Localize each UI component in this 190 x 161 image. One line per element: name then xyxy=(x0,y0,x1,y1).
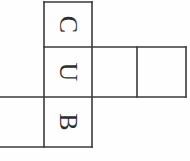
net-cell-cell-bottom-left xyxy=(0,97,44,147)
cube-net-diagram: CUB xyxy=(0,0,190,161)
cube-net-canvas: CUB xyxy=(0,0,190,161)
net-cell-cell-middle-right-inner xyxy=(92,47,137,97)
net-cell-fills xyxy=(0,2,186,147)
net-letter-c: C xyxy=(54,16,83,33)
net-letters: CUB xyxy=(54,16,83,131)
net-cell-cell-middle-right-outer xyxy=(137,47,186,97)
net-letter-u: U xyxy=(54,63,83,82)
net-letter-b: B xyxy=(54,113,83,130)
